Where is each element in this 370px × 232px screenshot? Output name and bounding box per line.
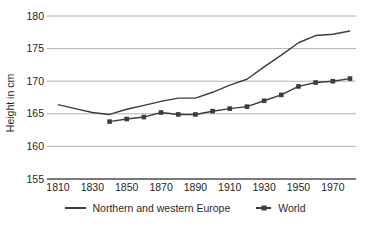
- series-line-europe: [58, 31, 350, 114]
- x-tick-label: 1870: [149, 181, 173, 193]
- legend-label-world: World: [278, 202, 305, 214]
- line-square-marker-swatch-icon: [256, 207, 271, 209]
- data-point-marker: [348, 76, 353, 81]
- chart-plot: 1801751701651601551810183018501870189019…: [0, 0, 370, 200]
- data-point-marker: [107, 119, 112, 124]
- y-tick-label: 180: [26, 10, 44, 22]
- legend: Northern and western Europe World: [0, 202, 370, 214]
- data-point-marker: [262, 98, 267, 103]
- data-point-marker: [279, 93, 284, 98]
- x-tick-label: 1930: [252, 181, 276, 193]
- y-tick-label: 160: [26, 140, 44, 152]
- data-point-marker: [313, 80, 318, 85]
- y-tick-label: 155: [26, 173, 44, 185]
- data-point-marker: [159, 110, 164, 115]
- x-tick-label: 1810: [46, 181, 70, 193]
- y-tick-label: 175: [26, 42, 44, 54]
- x-tick-label: 1830: [81, 181, 105, 193]
- data-point-marker: [227, 106, 232, 111]
- legend-item-europe: Northern and western Europe: [65, 202, 231, 214]
- x-tick-label: 1970: [321, 181, 345, 193]
- data-point-marker: [245, 104, 250, 109]
- x-tick-label: 1890: [184, 181, 208, 193]
- data-point-marker: [124, 117, 129, 122]
- data-point-marker: [142, 115, 147, 120]
- y-axis-label: Height in cm: [4, 58, 18, 148]
- x-tick-label: 1950: [287, 181, 311, 193]
- x-tick-label: 1850: [115, 181, 139, 193]
- height-line-chart-figure: 1801751701651601551810183018501870189019…: [0, 0, 370, 232]
- data-point-marker: [176, 112, 181, 117]
- y-tick-label: 170: [26, 75, 44, 87]
- data-point-marker: [193, 112, 198, 117]
- legend-item-world: World: [256, 202, 305, 214]
- legend-label-europe: Northern and western Europe: [93, 202, 231, 214]
- data-point-marker: [296, 84, 301, 89]
- line-swatch-icon: [65, 207, 86, 209]
- x-tick-label: 1910: [218, 181, 242, 193]
- y-tick-label: 165: [26, 107, 44, 119]
- data-point-marker: [331, 79, 336, 84]
- data-point-marker: [210, 109, 215, 114]
